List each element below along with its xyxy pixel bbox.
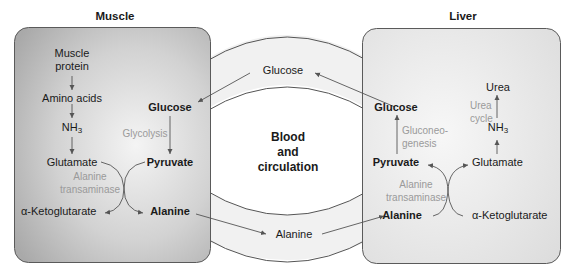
liver-glutamate-label: Glutamate [472,156,523,169]
liver-panel [363,29,561,264]
liver-glucose-label: Glucose [374,101,417,114]
muscle-alanine-label: Alanine [150,205,190,218]
liver-enzyme-label: Alanine transaminase [386,178,446,204]
muscle-enzyme-label: Alanine transaminase [60,170,120,196]
muscle-title: Muscle [96,10,135,23]
muscle-pyruvate-label: Pyruvate [147,156,193,169]
urea-label: Urea [486,81,510,94]
blood-glucose-label: Glucose [263,64,303,77]
blood-alanine-label: Alanine [276,228,313,241]
liver-pyruvate-label: Pyruvate [373,156,419,169]
glycolysis-label: Glycolysis [122,127,167,140]
liver-nh3-label: NH3 [488,121,508,134]
muscle-glucose-label: Glucose [148,101,191,114]
liver-alanine-label: Alanine [382,209,422,222]
muscle-nh3-label: NH3 [62,121,82,134]
blood-circulation-label: Blood and circulation [258,130,319,175]
liver-alpha-ketoglutarate-label: α-Ketoglutarate [472,209,547,222]
gluconeogenesis-label: Gluconeo- genesis [402,124,448,150]
muscle-panel [15,28,211,263]
muscle-glutamate-label: Glutamate [47,156,98,169]
muscle-alpha-ketoglutarate-label: α-Ketoglutarate [21,205,96,218]
amino-acids-label: Amino acids [42,92,102,105]
muscle-protein-label: Muscle protein [55,47,90,73]
liver-title: Liver [449,10,477,23]
